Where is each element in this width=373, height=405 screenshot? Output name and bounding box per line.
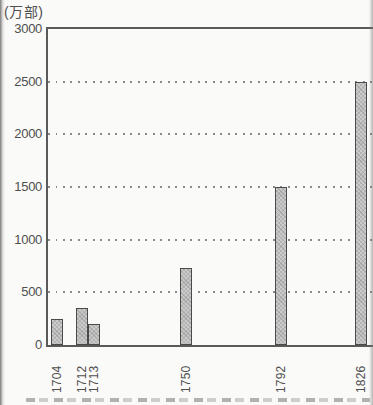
scan-right-edge-shadow (369, 0, 373, 405)
y-tick-label-0: 0 (0, 338, 42, 352)
bar-1826 (355, 82, 367, 345)
gridline-2000 (48, 133, 373, 135)
x-tick-label-1792: 1792 (275, 366, 288, 394)
y-tick-label-500: 500 (0, 285, 42, 299)
gridline-2500 (48, 81, 373, 83)
gridline-1000 (48, 239, 373, 241)
x-tick-label-1704: 1704 (51, 366, 64, 394)
x-tick-label-1750: 1750 (180, 366, 193, 394)
bar-1712 (76, 308, 88, 345)
scanned-bar-chart-page: (万部) 300025002000150010005000 1704171217… (0, 0, 373, 405)
gridline-500 (48, 291, 373, 293)
y-tick-label-2000: 2000 (0, 127, 42, 141)
cropped-caption-fragment (26, 398, 370, 402)
y-tick-label-1000: 1000 (0, 233, 42, 247)
x-tick-label-1713: 1713 (88, 366, 101, 394)
bar-1713 (88, 324, 100, 345)
x-tick-label-1826: 1826 (355, 366, 368, 394)
bar-1792 (275, 187, 287, 345)
y-axis-unit-label: (万部) (4, 1, 43, 21)
gridline-1500 (48, 186, 373, 188)
bar-1750 (180, 268, 192, 345)
y-tick-label-3000: 3000 (0, 22, 42, 36)
plot-area (46, 27, 373, 347)
bar-1704 (51, 319, 63, 345)
y-tick-label-1500: 1500 (0, 180, 42, 194)
scan-left-edge-shadow (0, 0, 5, 405)
y-tick-label-2500: 2500 (0, 75, 42, 89)
